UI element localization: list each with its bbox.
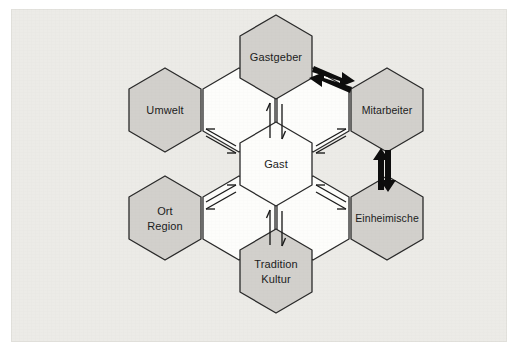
hex-label-ort-region-line2: Region [147, 220, 182, 232]
hex-node-mitarbeiter[interactable]: Mitarbeiter [351, 68, 423, 152]
hex-label-tradition-kultur-line1: Tradition [254, 258, 297, 270]
hex-label-einheimische: Einheimische [355, 212, 419, 224]
hex-label-ort-region-line1: Ort [157, 205, 173, 217]
figure-root: Gastgeber Umwelt Mitarbeiter Ort Region … [0, 0, 518, 352]
hex-node-ort-region[interactable]: Ort Region [129, 176, 201, 260]
hex-label-gast: Gast [264, 158, 288, 170]
hex-label-gastgeber: Gastgeber [250, 51, 303, 63]
hexagon-network-diagram: Gastgeber Umwelt Mitarbeiter Ort Region … [0, 0, 518, 352]
hex-label-tradition-kultur-line2: Kultur [261, 273, 291, 285]
hex-node-umwelt[interactable]: Umwelt [129, 68, 201, 152]
hex-label-mitarbeiter: Mitarbeiter [362, 104, 413, 116]
hex-shape-ort-region [129, 176, 201, 260]
hex-label-umwelt: Umwelt [146, 104, 183, 116]
